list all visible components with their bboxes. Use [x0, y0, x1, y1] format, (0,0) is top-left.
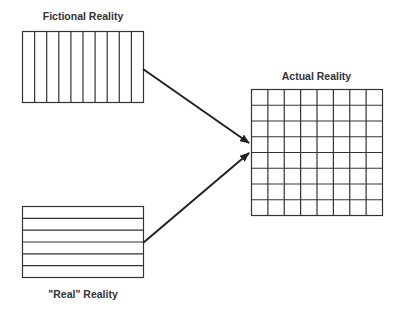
diagram-canvas: [0, 0, 400, 309]
fictional-reality-box: [23, 32, 144, 103]
arrow-real-to-actual: [143, 153, 249, 243]
real-reality-box: [23, 207, 144, 278]
actual-reality-grid: [252, 90, 383, 216]
arrow-fictional-to-actual: [143, 69, 249, 143]
